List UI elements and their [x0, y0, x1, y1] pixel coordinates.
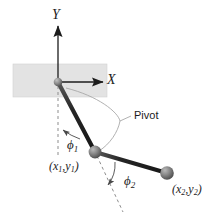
pivot-joint	[54, 78, 63, 87]
mass-2	[160, 166, 174, 180]
phi1-subscript: 1	[74, 144, 79, 154]
coordinate-label-mass-2: (x2,y2)	[172, 183, 202, 197]
phi2-symbol: ϕ	[124, 173, 131, 188]
rod1-extension-dashed-line	[97, 156, 123, 212]
double-pendulum-figure: Y X Pivot ϕ1 ϕ2 (x1,y1) (x2,y2)	[0, 0, 218, 219]
phi2-subscript: 2	[131, 180, 136, 190]
pivot-label: Pivot	[134, 110, 158, 121]
phi2-label: ϕ2	[124, 174, 135, 190]
coordinate-label-mass-1: (x1,y1)	[49, 160, 79, 174]
x-axis-label: X	[107, 73, 116, 87]
mass-1	[89, 146, 102, 159]
pivot-leader-lower	[99, 121, 120, 151]
phi1-label: ϕ1	[67, 138, 78, 154]
coord1-close-paren: )	[75, 159, 79, 173]
coord2-close-paren: )	[198, 182, 202, 196]
rod-2	[95, 152, 167, 173]
phi1-symbol: ϕ	[67, 137, 74, 152]
y-axis-label: Y	[52, 8, 60, 22]
pivot-leader-stub	[120, 116, 131, 121]
phi2-angle-arc	[108, 162, 115, 185]
